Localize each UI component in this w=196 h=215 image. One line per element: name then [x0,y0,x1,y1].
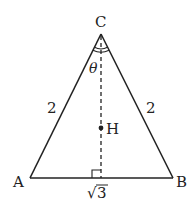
sqrt-symbol: √ [87,184,97,202]
side-cb [101,34,173,178]
triangle-diagram: C A B H θ 2 2 √ 3 [0,0,196,215]
side-label-cb: 2 [146,99,156,117]
vertex-label-b: B [176,173,187,191]
vertex-label-a: A [12,173,24,191]
point-h-dot [99,126,104,131]
sqrt-radicand: 3 [97,184,107,202]
side-ca [30,34,101,178]
angle-arc-inner [95,47,108,49]
side-label-ab: √ 3 [87,184,108,202]
angle-label-theta: θ [89,60,98,76]
side-label-ca: 2 [47,99,57,117]
right-angle-marker [92,170,101,178]
vertex-label-c: C [95,13,106,31]
point-label-h: H [106,120,119,138]
